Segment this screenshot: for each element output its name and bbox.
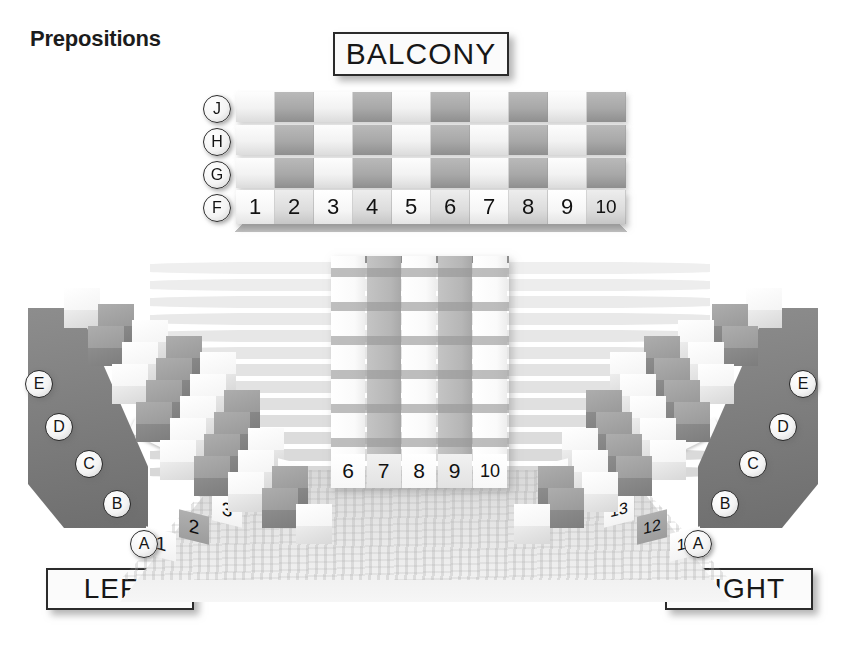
balcony-seat-cell	[392, 92, 431, 122]
balcony-row-badge-F: F	[203, 194, 231, 222]
seat-cube	[698, 364, 734, 394]
seat-cube	[616, 456, 652, 486]
seat-cube-top	[194, 456, 230, 478]
balcony-seat-cell	[275, 158, 314, 188]
balcony-row-F-seats: 12345678910	[236, 190, 626, 224]
seating-plan-diagram: Prepositions BALCONY 12345678910 J H G F…	[0, 0, 846, 645]
balcony-seat-cell	[236, 125, 275, 155]
balcony-seat-cell	[353, 158, 392, 188]
balcony-label: BALCONY	[333, 32, 509, 76]
balcony-seat-cell	[392, 125, 431, 155]
balcony-seat-cell	[587, 125, 626, 155]
seat-cube-top	[746, 288, 782, 310]
middle-row-band	[331, 268, 509, 277]
seat-cube-top	[200, 352, 236, 374]
balcony-row-H	[236, 125, 626, 155]
balcony-seat-number: 6	[431, 190, 470, 224]
seat-cube-top	[170, 418, 206, 440]
seat-cube-top	[88, 326, 124, 348]
balcony-seat-cell	[236, 158, 275, 188]
balcony-seat-cell	[431, 158, 470, 188]
balcony-row-G	[236, 158, 626, 188]
seat-cube-top	[166, 336, 202, 358]
seat-cube-top	[514, 504, 550, 526]
seat-cube-top	[582, 472, 618, 494]
seat-cube-top	[180, 396, 216, 418]
balcony-seat-cell	[275, 125, 314, 155]
seat-cube	[136, 402, 172, 432]
balcony-seating-block: 12345678910	[236, 92, 626, 220]
right-row-badge-B: B	[711, 490, 739, 518]
balcony-seat-cell	[470, 125, 509, 155]
seat-cube-top	[572, 450, 608, 472]
seat-cube	[262, 488, 298, 518]
seat-cube-top	[664, 380, 700, 402]
balcony-seat-number: 9	[548, 190, 587, 224]
balcony-seat-cell	[548, 125, 587, 155]
balcony-seat-cell	[314, 125, 353, 155]
middle-row-band	[331, 438, 509, 447]
balcony-seat-cell	[314, 92, 353, 122]
page-title: Prepositions	[30, 26, 161, 52]
seat-cube-top	[698, 364, 734, 386]
right-row-badge-A: A	[684, 530, 712, 558]
seat-cube	[582, 472, 618, 502]
left-row-badge-C: C	[75, 450, 103, 478]
seat-cube-top	[122, 342, 158, 364]
seat-cube-top	[548, 488, 584, 510]
balcony-seat-number: 1	[236, 190, 275, 224]
seat-cube-top	[146, 380, 182, 402]
seat-cube	[296, 504, 332, 534]
left-row-badge-B: B	[103, 490, 131, 518]
seat-cube-top	[640, 418, 676, 440]
seat-cube-top	[136, 402, 172, 424]
balcony-seat-cell	[236, 92, 275, 122]
seat-cube-top	[674, 402, 710, 424]
seat-cube-top	[224, 390, 260, 412]
seat-cube-top	[204, 434, 240, 456]
seat-cube-top	[112, 364, 148, 386]
seat-cube-top	[248, 428, 284, 450]
seat-cube-top	[678, 320, 714, 342]
seat-cube	[88, 326, 124, 356]
seat-cube-top	[596, 412, 632, 434]
seat-cube-top	[98, 304, 134, 326]
balcony-seat-number: 7	[470, 190, 509, 224]
seat-cube-top	[562, 428, 598, 450]
seat-cube-top	[586, 390, 622, 412]
seat-cube-top	[190, 374, 226, 396]
seat-cube	[548, 488, 584, 518]
left-seat-number: 2	[179, 509, 209, 544]
balcony-row-badge-H: H	[203, 128, 231, 156]
seat-cube-top	[620, 374, 656, 396]
middle-seat-number: 10	[473, 454, 507, 488]
seat-cube-top	[538, 466, 574, 488]
balcony-seat-cell	[314, 158, 353, 188]
seat-cube	[160, 440, 196, 470]
balcony-seat-cell	[431, 92, 470, 122]
seat-cube-top	[228, 472, 264, 494]
seat-cube-top	[650, 440, 686, 462]
right-row-badge-C: C	[739, 450, 767, 478]
seat-cube	[194, 456, 230, 486]
middle-seat-number: 9	[438, 454, 472, 488]
balcony-seat-number: 4	[353, 190, 392, 224]
seat-cube	[112, 364, 148, 394]
middle-seat-number: 7	[367, 454, 401, 488]
balcony-seat-cell	[509, 125, 548, 155]
balcony-seat-cell	[275, 92, 314, 122]
left-row-badge-E: E	[25, 370, 53, 398]
middle-row-band	[331, 336, 509, 345]
middle-seating-block: 678910	[331, 256, 509, 488]
seat-cube	[746, 288, 782, 318]
seat-cube	[228, 472, 264, 502]
left-row-badge-D: D	[45, 413, 73, 441]
seat-cube-top	[610, 352, 646, 374]
balcony-row-J	[236, 92, 626, 122]
balcony-seat-cell	[509, 158, 548, 188]
middle-row-band	[331, 302, 509, 311]
balcony-seat-cell	[587, 158, 626, 188]
seat-cube-top	[160, 440, 196, 462]
left-row-badge-A: A	[130, 530, 158, 558]
balcony-row-badge-J: J	[203, 95, 231, 123]
